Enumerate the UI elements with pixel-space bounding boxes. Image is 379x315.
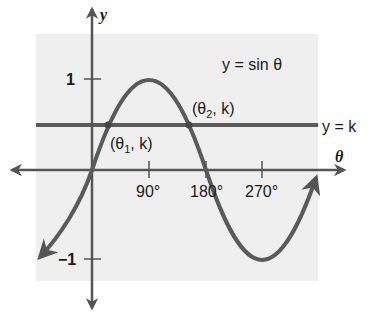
tick-label-270: 270° [245,183,278,200]
sine-graph: y θ 1 −1 90° 180° 270° y = sin θ y = k (… [0,0,379,315]
intersection-point-2 [186,122,193,129]
curve-label: y = sin θ [222,56,282,73]
y-axis-label: y [98,6,108,24]
tick-label-1: 1 [66,71,75,88]
x-axis-label: θ [335,148,344,165]
tick-label-90: 90° [136,183,160,200]
tick-label-180: 180° [190,183,223,200]
line-label: y = k [322,118,357,135]
intersection-point-1 [105,122,112,129]
tick-label-neg1: −1 [58,251,76,268]
